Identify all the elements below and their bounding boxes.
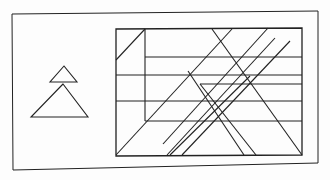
figure-line-8 (167, 38, 275, 155)
small-triangle (50, 66, 77, 82)
outer-frame (12, 11, 318, 170)
figure-line-9 (182, 41, 290, 155)
figure-line-1 (116, 29, 145, 60)
complex-figure-lines (116, 28, 302, 155)
puzzle-canvas: Simple figure (two stacked triangles) on… (0, 0, 330, 180)
figure-line-7 (116, 29, 232, 155)
complex-figure-frame (116, 28, 302, 156)
figure-line-14 (200, 84, 256, 155)
puzzle-figure (0, 0, 330, 180)
complex-figure (116, 28, 302, 156)
large-triangle (31, 84, 88, 117)
simple-figure (31, 66, 88, 117)
figure-line-11 (170, 76, 250, 155)
